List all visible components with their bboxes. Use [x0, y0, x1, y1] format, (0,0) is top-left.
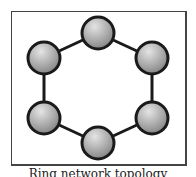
ring-node: [136, 42, 168, 74]
ring-node: [28, 102, 60, 134]
ring-diagram: [0, 0, 196, 177]
ring-node: [82, 17, 114, 49]
ring-node: [82, 127, 114, 159]
ring-node: [28, 42, 60, 74]
ring-nodes: [28, 17, 168, 159]
ring-node: [136, 102, 168, 134]
diagram-caption: Ring network topology: [0, 167, 196, 177]
